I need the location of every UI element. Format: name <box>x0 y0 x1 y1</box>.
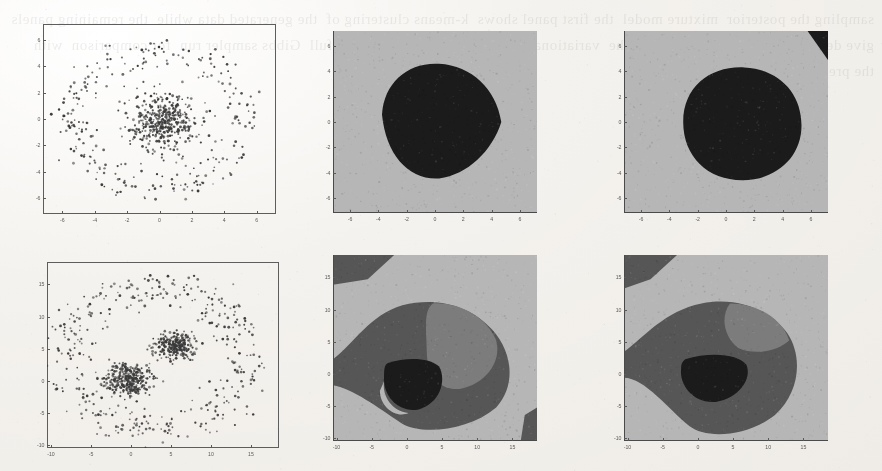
y-axis-tick-label: 2 <box>38 90 41 96</box>
decision-region-map <box>624 31 828 213</box>
y-axis-tick-mark <box>47 413 50 414</box>
y-axis-tick-mark <box>624 46 627 47</box>
y-axis-tick-mark <box>47 349 50 350</box>
x-axis-tick-label: -4 <box>92 217 97 223</box>
decision-region-two-class-a: -6-4-20246-6-4-20246 <box>333 31 537 213</box>
x-axis-tick-mark <box>51 445 52 448</box>
x-axis-tick-mark <box>477 438 478 441</box>
y-axis-tick-label: -4 <box>326 170 331 176</box>
y-axis-tick-label: -2 <box>36 142 41 148</box>
y-axis-tick-mark <box>47 317 50 318</box>
y-axis-tick-label: -4 <box>36 169 41 175</box>
y-axis-tick-label: 10 <box>39 314 45 320</box>
x-axis-tick-mark <box>768 438 769 441</box>
y-axis-tick-label: 5 <box>42 346 45 352</box>
x-axis-tick-mark <box>803 438 804 441</box>
y-axis-tick-label: 0 <box>328 371 331 377</box>
x-axis-tick-label: 4 <box>223 217 226 223</box>
x-axis-tick-mark <box>251 445 252 448</box>
x-axis-tick-mark <box>257 211 258 214</box>
y-axis-tick-label: -10 <box>614 435 622 441</box>
y-axis-tick-mark <box>47 445 50 446</box>
y-axis-tick-mark <box>43 66 46 67</box>
x-axis-tick-label: -2 <box>404 216 409 222</box>
scatter-points <box>47 262 279 448</box>
x-axis-tick-label: 5 <box>732 444 735 450</box>
x-axis-tick-label: 10 <box>765 444 771 450</box>
x-axis-tick-label: 6 <box>810 216 813 222</box>
decision-region-two-class-b: -6-4-20246-6-4-20246 <box>624 31 828 213</box>
scatter-points <box>43 24 276 214</box>
y-axis-tick-mark <box>624 147 627 148</box>
x-axis-tick-label: 15 <box>248 451 254 457</box>
x-axis-tick-label: 6 <box>255 217 258 223</box>
decision-region-map <box>333 255 537 441</box>
x-axis-tick-mark <box>91 445 92 448</box>
y-axis-tick-mark <box>333 46 336 47</box>
y-axis-tick-label: 6 <box>38 37 41 43</box>
x-axis-tick-label: 0 <box>725 216 728 222</box>
y-axis-tick-label: -6 <box>326 195 331 201</box>
x-axis-tick-label: 10 <box>208 451 214 457</box>
y-axis-tick-mark <box>624 406 627 407</box>
y-axis-tick-mark <box>47 381 50 382</box>
y-axis-tick-mark <box>333 97 336 98</box>
x-axis-tick-mark <box>463 210 464 213</box>
x-axis-tick-label: 10 <box>474 444 480 450</box>
x-axis-tick-mark <box>407 210 408 213</box>
y-axis-tick-mark <box>43 40 46 41</box>
y-axis-tick-label: 4 <box>38 63 41 69</box>
decision-region-multi-class-b: -10-5051015-10-5051015 <box>624 255 828 441</box>
x-axis-tick-mark <box>492 210 493 213</box>
x-axis-tick-label: -5 <box>369 444 374 450</box>
y-axis-tick-label: 4 <box>619 68 622 74</box>
y-axis-tick-mark <box>43 119 46 120</box>
y-axis-tick-mark <box>333 310 336 311</box>
x-axis-tick-mark <box>192 211 193 214</box>
decision-region-map <box>333 31 537 213</box>
y-axis-tick-label: 10 <box>325 307 331 313</box>
y-axis-tick-mark <box>47 284 50 285</box>
x-axis-tick-label: 0 <box>434 216 437 222</box>
y-axis-tick-mark <box>624 277 627 278</box>
x-axis-tick-label: 0 <box>158 217 161 223</box>
decision-region-map <box>624 255 828 441</box>
y-axis-tick-label: 2 <box>619 94 622 100</box>
x-axis-tick-label: -10 <box>47 451 55 457</box>
x-axis-tick-mark <box>62 211 63 214</box>
y-axis-tick-mark <box>43 93 46 94</box>
x-axis-tick-label: 0 <box>130 451 133 457</box>
y-axis-tick-label: 5 <box>619 339 622 345</box>
y-axis-tick-label: 2 <box>328 94 331 100</box>
x-axis-tick-mark <box>754 210 755 213</box>
x-axis-tick-mark <box>160 211 161 214</box>
x-axis-tick-label: 4 <box>781 216 784 222</box>
y-axis-tick-mark <box>624 122 627 123</box>
y-axis-tick-label: 15 <box>325 274 331 280</box>
x-axis-tick-label: 6 <box>519 216 522 222</box>
y-axis-tick-mark <box>624 342 627 343</box>
y-axis-tick-label: 0 <box>619 119 622 125</box>
x-axis-tick-mark <box>337 438 338 441</box>
x-axis-tick-label: -4 <box>667 216 672 222</box>
x-axis-tick-mark <box>131 445 132 448</box>
x-axis-tick-label: -5 <box>89 451 94 457</box>
x-axis-tick-mark <box>520 210 521 213</box>
x-axis-tick-label: 5 <box>170 451 173 457</box>
y-axis-tick-mark <box>624 173 627 174</box>
y-axis-tick-label: -2 <box>326 144 331 150</box>
x-axis-tick-label: -6 <box>639 216 644 222</box>
y-axis-tick-mark <box>624 71 627 72</box>
y-axis-tick-label: 0 <box>38 116 41 122</box>
y-axis-tick-label: 15 <box>39 281 45 287</box>
decision-region-multi-class-a: -10-5051015-10-5051015 <box>333 255 537 441</box>
x-axis-tick-label: -2 <box>125 217 130 223</box>
y-axis-tick-label: 0 <box>328 119 331 125</box>
x-axis-tick-label: -6 <box>348 216 353 222</box>
y-axis-tick-label: 5 <box>328 339 331 345</box>
x-axis-tick-label: 2 <box>462 216 465 222</box>
y-axis-tick-label: -10 <box>323 435 331 441</box>
y-axis-tick-label: -2 <box>617 144 622 150</box>
x-axis-tick-mark <box>95 211 96 214</box>
y-axis-tick-mark <box>43 198 46 199</box>
